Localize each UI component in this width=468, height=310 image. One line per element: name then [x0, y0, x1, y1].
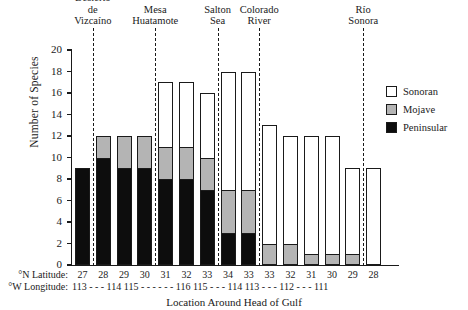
bar-segment-sonoran — [221, 72, 236, 190]
bar-segment-mojave — [221, 190, 236, 233]
bar-segment-peninsular — [158, 179, 173, 265]
bar — [158, 50, 173, 265]
bar-segment-mojave — [345, 254, 360, 265]
bar-segment-sonoran — [158, 82, 173, 147]
bar — [200, 50, 215, 265]
bar-stack — [137, 136, 152, 265]
bar-segment-mojave — [158, 147, 173, 179]
bar — [221, 50, 236, 265]
bar-stack — [262, 125, 277, 265]
y-tick-label: 10 — [38, 152, 66, 163]
y-tick-value: 14 — [38, 109, 62, 120]
bar-segment-mojave — [137, 136, 152, 168]
latitude-tick-value: 33 — [262, 269, 277, 280]
bar-segment-peninsular — [221, 233, 236, 265]
bar-segment-sonoran — [200, 93, 215, 158]
bar — [283, 50, 298, 265]
legend-item: Sonoran — [386, 84, 447, 99]
latitude-tick-value: 29 — [117, 269, 132, 280]
bar — [325, 50, 340, 265]
legend-item: Mojave — [386, 102, 447, 117]
bar-segment-peninsular — [117, 168, 132, 265]
bar-segment-sonoran — [366, 168, 381, 265]
y-tick-mark — [67, 49, 71, 50]
y-tick-value: 8 — [38, 173, 62, 184]
plot-area — [72, 50, 384, 265]
bar-segment-mojave — [200, 158, 215, 190]
latitude-tick-value: 34 — [221, 269, 236, 280]
latitude-tick-value: 31 — [304, 269, 319, 280]
bar-stack — [221, 72, 236, 266]
legend-swatch-mojave — [386, 104, 397, 115]
bar-stack — [325, 136, 340, 265]
region-label-line: Sonora — [318, 15, 408, 26]
bar — [345, 50, 360, 265]
bar-segment-peninsular — [200, 190, 215, 265]
y-tick-label: 4 — [38, 216, 66, 227]
region-label: ColoradoRiver — [214, 4, 304, 26]
y-tick-mark — [67, 135, 71, 136]
legend-item: Peninsular — [386, 120, 447, 135]
latitude-tick-value: 33 — [241, 269, 256, 280]
y-tick-mark — [67, 200, 71, 201]
latitude-tick-row: 272829303132333433333231302928 — [72, 269, 384, 280]
y-tick-label: 14 — [38, 109, 66, 120]
bar-stack — [200, 93, 215, 265]
y-tick-value: 10 — [38, 152, 62, 163]
bar-stack — [117, 136, 132, 265]
bar — [262, 50, 277, 265]
bar-segment-sonoran — [325, 136, 340, 254]
y-tick-label: 16 — [38, 87, 66, 98]
bar-stack — [158, 82, 173, 265]
bar-stack — [345, 168, 360, 265]
stacked-bar-chart: Number of Species 02468101214161820 Desi… — [0, 0, 468, 310]
y-tick-label: 20 — [38, 44, 66, 55]
y-tick-mark — [67, 92, 71, 93]
legend-swatch-peninsular — [386, 122, 397, 133]
bar-stack — [304, 136, 319, 265]
y-tick-mark — [67, 243, 71, 244]
bar — [117, 50, 132, 265]
x-axis-line — [71, 265, 399, 266]
bar-segment-sonoran — [345, 168, 360, 254]
bar-stack — [179, 82, 194, 265]
bar-segment-sonoran — [283, 136, 298, 244]
latitude-tick-value: 32 — [283, 269, 298, 280]
bar-segment-mojave — [117, 136, 132, 168]
bar — [179, 50, 194, 265]
y-tick-mark — [67, 71, 71, 72]
y-tick-mark — [67, 178, 71, 179]
y-tick-mark — [67, 114, 71, 115]
bar-segment-mojave — [96, 136, 111, 158]
bar-segment-mojave — [304, 254, 319, 265]
bar-segment-mojave — [262, 244, 277, 266]
y-tick-value: 16 — [38, 87, 62, 98]
bar-segment-sonoran — [262, 125, 277, 243]
bar — [241, 50, 256, 265]
bar-segment-sonoran — [179, 82, 194, 147]
bar-segment-mojave — [283, 244, 298, 266]
y-tick-value: 20 — [38, 44, 62, 55]
y-tick-label: 6 — [38, 195, 66, 206]
legend: SonoranMojavePeninsular — [386, 84, 447, 138]
bar-segment-peninsular — [75, 168, 90, 265]
bar-segment-sonoran — [241, 72, 256, 190]
region-label-line: Colorado — [214, 4, 304, 15]
bar-segment-peninsular — [241, 233, 256, 265]
y-tick-value: 18 — [38, 66, 62, 77]
bar — [304, 50, 319, 265]
y-tick-label: 2 — [38, 238, 66, 249]
latitude-tick-value: 31 — [158, 269, 173, 280]
longitude-row-label: °W Longitude: — [0, 281, 68, 292]
latitude-tick-value: 30 — [325, 269, 340, 280]
bar-segment-peninsular — [137, 168, 152, 265]
bar — [96, 50, 111, 265]
y-tick-mark — [67, 157, 71, 158]
y-tick-mark — [67, 264, 71, 265]
y-tick-mark — [67, 221, 71, 222]
longitude-tick-row: 113 - - - 114 115 - - - - - - 116 115 - … — [72, 281, 328, 292]
bar-stack — [75, 168, 90, 265]
y-tick-label: 12 — [38, 130, 66, 141]
bar-stack — [283, 136, 298, 265]
bar-stack — [241, 72, 256, 266]
